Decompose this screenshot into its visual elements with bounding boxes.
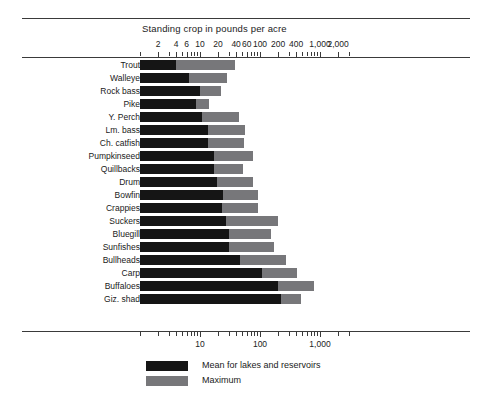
axis-tick-mark — [229, 332, 230, 336]
bottom-tick-label: 10 — [195, 339, 204, 349]
bar-mean — [140, 60, 176, 70]
axis-tick-mark — [176, 52, 177, 57]
axis-tick-mark — [307, 332, 308, 336]
bar-mean — [140, 125, 208, 135]
row-label: Buffaloes — [105, 281, 140, 291]
row-label: Quillbacks — [101, 164, 140, 174]
chart-axis-title: Standing crop in pounds per acre — [142, 23, 287, 34]
bar-mean — [140, 255, 240, 265]
axis-tick-mark — [289, 332, 290, 336]
axis-tick-mark — [236, 52, 237, 57]
axis-tick-mark — [218, 332, 219, 336]
row-label: Pike — [123, 99, 140, 109]
top-tick-label: 2 — [156, 39, 161, 49]
bar-mean — [140, 164, 214, 174]
axis-tick-mark — [338, 52, 339, 57]
axis-tick-mark — [187, 332, 188, 336]
top-tick-label: 200 — [271, 39, 285, 49]
bar-mean — [140, 112, 202, 122]
axis-tick-mark — [169, 52, 170, 56]
row-label: Bullheads — [103, 255, 140, 265]
top-tick-label: 2,000 — [327, 39, 348, 49]
axis-tick-mark — [349, 332, 350, 336]
chart-row: Suckers — [0, 215, 492, 228]
row-label: Y. Perch — [108, 112, 140, 122]
top-axis-tick-marks — [0, 52, 492, 57]
axis-tick-mark — [251, 52, 252, 56]
row-label: Pumpkinseed — [88, 151, 140, 161]
axis-tick-mark — [191, 52, 192, 56]
chart-row: Pike — [0, 98, 492, 111]
bar-mean — [140, 99, 196, 109]
bar-mean — [140, 190, 223, 200]
axis-tick-mark — [289, 52, 290, 56]
axis-tick-mark — [182, 332, 183, 336]
top-axis-tick-labels: 246102040601002004001,0002,000 — [0, 39, 492, 51]
chart-row: Walleye — [0, 72, 492, 85]
axis-tick-mark — [296, 52, 297, 57]
legend-label: Mean for lakes and reservoirs — [202, 360, 321, 370]
axis-tick-mark — [158, 52, 159, 57]
axis-tick-mark — [257, 332, 258, 336]
axis-tick-mark — [236, 332, 237, 336]
axis-tick-mark — [191, 332, 192, 336]
bottom-axis-tick-labels: 101001,000 — [0, 339, 492, 351]
chart-row: Buffaloes — [0, 280, 492, 293]
axis-tick-mark — [182, 52, 183, 56]
top-tick-label: 10 — [195, 39, 204, 49]
axis-tick-mark — [302, 332, 303, 336]
top-tick-label: 20 — [213, 39, 222, 49]
chart-row: Y. Perch — [0, 111, 492, 124]
bar-mean — [140, 151, 214, 161]
axis-tick-mark — [247, 332, 248, 336]
bar-mean — [140, 177, 217, 187]
chart-row: Bullheads — [0, 254, 492, 267]
axis-tick-mark — [176, 332, 177, 336]
top-tick-label: 60 — [242, 39, 251, 49]
axis-tick-mark — [278, 332, 279, 336]
axis-tick-mark — [349, 52, 350, 56]
bar-mean — [140, 73, 189, 83]
chart-row: Bowfin — [0, 189, 492, 202]
bottom-tick-label: 1,000 — [309, 339, 330, 349]
chart-row: Bluegill — [0, 228, 492, 241]
chart-row: Quillbacks — [0, 163, 492, 176]
chart-row: Rock bass — [0, 85, 492, 98]
row-label: Sunfishes — [103, 242, 140, 252]
axis-tick-mark — [296, 332, 297, 336]
axis-tick-mark — [302, 52, 303, 56]
bar-mean — [140, 268, 262, 278]
axis-tick-mark — [311, 332, 312, 336]
frame-rule-top — [22, 18, 470, 19]
axis-tick-mark — [314, 52, 315, 56]
axis-tick-mark — [317, 332, 318, 336]
chart-row: Trout — [0, 59, 492, 72]
axis-tick-mark — [200, 332, 201, 337]
bar-mean — [140, 86, 200, 96]
row-label: Bowfin — [114, 190, 140, 200]
axis-tick-mark — [260, 52, 261, 57]
axis-tick-mark — [307, 52, 308, 56]
axis-tick-mark — [311, 52, 312, 56]
row-label: Trout — [120, 60, 140, 70]
axis-tick-mark — [158, 332, 159, 336]
chart-figure: Standing crop in pounds per acre 2461020… — [0, 0, 492, 399]
axis-tick-mark — [247, 52, 248, 57]
axis-tick-mark — [251, 332, 252, 336]
bar-mean — [140, 294, 281, 304]
legend-label: Maximum — [202, 375, 241, 385]
bar-mean — [140, 138, 208, 148]
bar-mean — [140, 216, 226, 226]
axis-tick-mark — [194, 52, 195, 56]
bar-mean — [140, 203, 222, 213]
axis-tick-mark — [242, 332, 243, 336]
chart-row: Drum — [0, 176, 492, 189]
bar-mean — [140, 229, 229, 239]
bottom-tick-label: 100 — [253, 339, 267, 349]
top-tick-label: 100 — [253, 39, 267, 49]
axis-tick-mark — [187, 52, 188, 57]
axis-tick-mark — [338, 332, 339, 336]
row-label: Drum — [119, 177, 140, 187]
row-label: Bluegill — [113, 229, 140, 239]
legend-swatch — [146, 361, 188, 371]
